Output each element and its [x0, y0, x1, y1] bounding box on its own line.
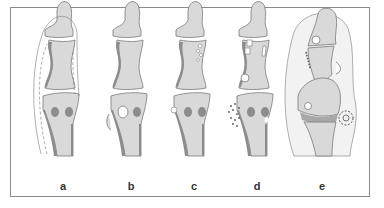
- panel-label-c: c: [184, 180, 204, 192]
- panel-label-a: a: [53, 180, 73, 192]
- panel-label-e: e: [312, 180, 332, 192]
- panel-label-b: b: [121, 180, 141, 192]
- panel-e-illustration: [285, 8, 356, 156]
- panel-c-illustration: [171, 2, 210, 156]
- panel-b-illustration: [107, 2, 147, 156]
- panel-a-illustration: [34, 2, 79, 156]
- panel-label-d: d: [247, 180, 267, 192]
- panel-d-illustration: [228, 2, 273, 156]
- thumb-bone-illustrations: [0, 0, 384, 208]
